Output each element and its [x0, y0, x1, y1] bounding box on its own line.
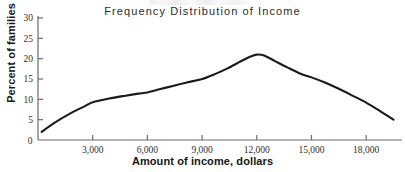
- x-tick-label: 12,000: [244, 145, 270, 155]
- x-tick-label: 18,000: [353, 145, 379, 155]
- y-tick-label: 20: [24, 54, 34, 64]
- data-series-line: [42, 55, 394, 132]
- x-axis-label: Amount of income, dollars: [0, 155, 405, 167]
- axes-group: [38, 16, 402, 140]
- y-tick-label: 10: [24, 95, 34, 105]
- x-tick-label: 0: [28, 136, 33, 146]
- x-tick-label: 15,000: [298, 145, 324, 155]
- y-tick-label: 25: [24, 34, 34, 44]
- x-tick-group: 03,0006,0009,00012,00015,00018,000: [28, 135, 380, 155]
- chart-figure: Frequency Distribution of Income Percent…: [0, 0, 405, 172]
- y-tick-group: 51015202530: [24, 13, 44, 125]
- x-tick-label: 3,000: [82, 145, 104, 155]
- x-tick-label: 6,000: [137, 145, 159, 155]
- plot-area: 03,0006,0009,00012,00015,00018,000 51015…: [0, 0, 405, 172]
- x-tick-label: 9,000: [191, 145, 213, 155]
- y-tick-label: 30: [24, 13, 34, 23]
- y-tick-label: 5: [28, 115, 33, 125]
- y-tick-label: 15: [24, 74, 34, 84]
